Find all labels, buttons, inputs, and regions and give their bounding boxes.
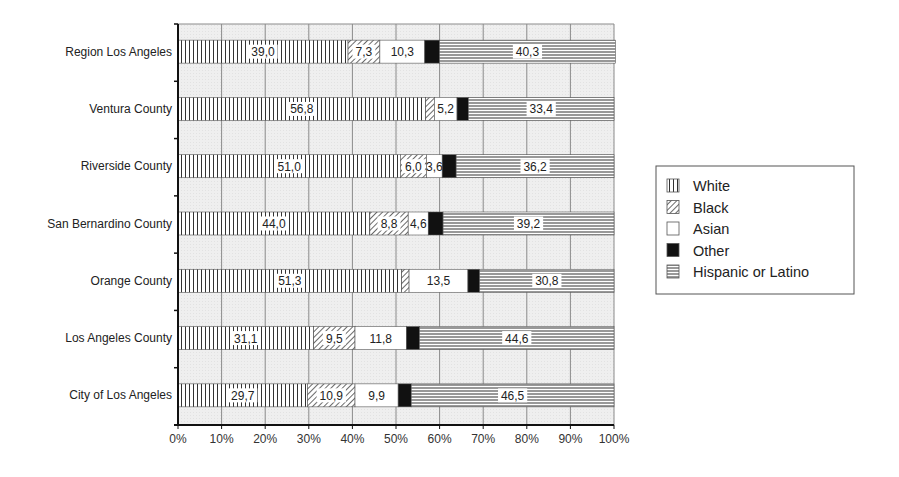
data-label: 5,2 — [437, 102, 454, 116]
legend-label: Other — [693, 243, 729, 259]
x-tick-label: 40% — [340, 432, 364, 446]
category-label: Region Los Angeles — [65, 45, 172, 59]
bar-row: 31,19,511,844,6 — [178, 327, 614, 350]
legend-label: White — [693, 178, 730, 194]
bar-segment-other — [442, 155, 456, 178]
x-tick-label: 20% — [253, 432, 277, 446]
legend-swatch-other — [667, 244, 679, 257]
data-label: 51,3 — [278, 274, 302, 288]
data-label: 13,5 — [427, 274, 451, 288]
data-label: 29,7 — [231, 389, 255, 403]
data-label: 6,0 — [405, 160, 422, 174]
data-label: 44,0 — [262, 217, 286, 231]
data-label: 9,9 — [368, 389, 385, 403]
x-tick-label: 100% — [599, 432, 630, 446]
data-label: 7,3 — [356, 45, 373, 59]
data-label: 10,9 — [320, 389, 344, 403]
data-label: 11,8 — [370, 332, 393, 346]
plot-area: 39,07,310,340,3Region Los Angeles56,85,2… — [47, 24, 629, 446]
data-label: 39,2 — [517, 217, 541, 231]
legend-label: Hispanic or Latino — [693, 264, 809, 280]
bar-segment-other — [468, 269, 480, 292]
data-label: 8,8 — [381, 217, 398, 231]
category-label: Orange County — [91, 274, 172, 288]
bar-row: 56,85,233,4 — [178, 97, 614, 120]
data-label: 9,5 — [326, 332, 343, 346]
category-label: San Bernardino County — [47, 217, 172, 231]
data-label: 33,4 — [530, 102, 554, 116]
bar-segment-other — [457, 97, 468, 120]
bar-segment-black — [402, 269, 409, 292]
legend: WhiteBlackAsianOtherHispanic or Latino — [656, 166, 854, 294]
data-label: 4,6 — [410, 217, 427, 231]
bar-row: 44,08,84,639,2 — [178, 212, 614, 235]
data-label: 46,5 — [501, 389, 525, 403]
data-label: 39,0 — [251, 45, 275, 59]
x-tick-label: 30% — [297, 432, 321, 446]
bar-segment-other — [428, 212, 443, 235]
bar-segment-other — [425, 40, 440, 63]
legend-swatch-hispanic-or-latino — [667, 265, 679, 278]
bar-segment-other — [398, 384, 411, 407]
x-tick-label: 90% — [558, 432, 582, 446]
chart-canvas: 39,07,310,340,3Region Los Angeles56,85,2… — [0, 0, 899, 477]
data-label: 10,3 — [391, 45, 415, 59]
data-label: 30,8 — [535, 274, 559, 288]
bar-row: 51,06,03,636,2 — [178, 155, 614, 178]
x-tick-label: 70% — [471, 432, 495, 446]
x-tick-label: 10% — [210, 432, 234, 446]
legend-label: Asian — [693, 221, 729, 237]
x-tick-label: 60% — [428, 432, 452, 446]
category-label: Ventura County — [89, 102, 172, 116]
x-tick-label: 0% — [169, 432, 187, 446]
bar-row: 29,710,99,946,5 — [178, 384, 614, 407]
category-label: Los Angeles County — [65, 331, 172, 345]
data-label: 40,3 — [516, 45, 540, 59]
data-label: 36,2 — [523, 160, 547, 174]
data-label: 31,1 — [234, 332, 258, 346]
legend-swatch-asian — [667, 222, 679, 235]
data-label: 44,6 — [505, 332, 529, 346]
legend-swatch-black — [667, 201, 679, 214]
data-label: 56,8 — [290, 102, 314, 116]
stacked-bar-chart: 39,07,310,340,3Region Los Angeles56,85,2… — [0, 0, 899, 477]
category-label: Riverside County — [81, 159, 172, 173]
bar-segment-black — [426, 97, 435, 120]
bar-segment-other — [406, 327, 419, 350]
data-label: 3,6 — [426, 160, 443, 174]
legend-swatch-white — [667, 179, 679, 192]
category-label: City of Los Angeles — [69, 388, 172, 402]
x-tick-label: 50% — [384, 432, 408, 446]
data-label: 51,0 — [278, 160, 302, 174]
bar-row: 39,07,310,340,3 — [178, 40, 615, 63]
bar-row: 51,313,530,8 — [178, 269, 614, 292]
x-tick-label: 80% — [515, 432, 539, 446]
legend-label: Black — [693, 200, 729, 216]
